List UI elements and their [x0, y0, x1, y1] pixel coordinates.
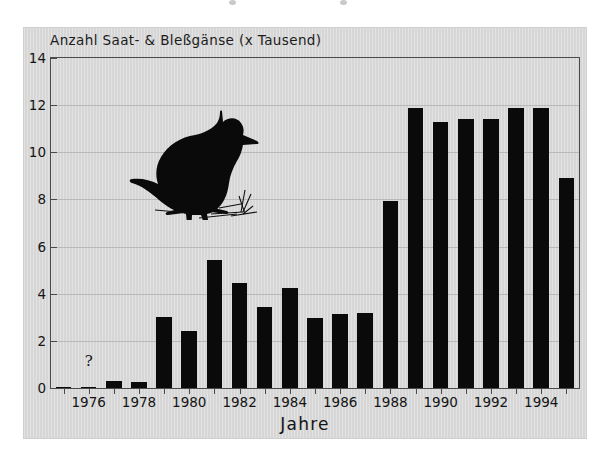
y-axis-label: 10 — [29, 144, 46, 160]
bar-1988 — [383, 201, 399, 388]
bar-1984 — [282, 288, 298, 388]
x-axis-label-1978: 1978 — [122, 394, 156, 410]
x-axis-label-1990: 1990 — [424, 394, 458, 410]
y-axis-label: 0 — [37, 380, 46, 396]
y-axis-label: 2 — [37, 333, 46, 349]
scan-artifacts — [0, 0, 602, 18]
x-axis-label-1976: 1976 — [72, 394, 106, 410]
goose-silhouette-icon — [127, 110, 267, 220]
bar-1987 — [357, 313, 373, 388]
x-axis-title: Jahre — [24, 414, 586, 434]
bar-series — [51, 58, 579, 388]
plot-area — [50, 57, 580, 389]
bar-1980 — [181, 331, 197, 388]
x-axis-label-1984: 1984 — [273, 394, 307, 410]
scan-blot — [229, 0, 236, 5]
bar-1985 — [307, 318, 323, 388]
bar-1989 — [408, 108, 424, 389]
y-axis-label: 8 — [37, 191, 46, 207]
bar-1990 — [433, 122, 449, 388]
y-axis-label: 12 — [29, 97, 46, 113]
bar-1975 — [56, 387, 72, 389]
bar-1978 — [131, 382, 147, 388]
y-axis-label: 6 — [37, 239, 46, 255]
x-axis-label-1992: 1992 — [474, 394, 508, 410]
x-axis-labels: 1976197819801982198419861988199019921994 — [50, 394, 580, 414]
y-axis-label: 14 — [29, 50, 46, 66]
y-axis-label: 4 — [37, 286, 46, 302]
bar-1993 — [508, 108, 524, 389]
y-axis-labels: 02468101214 — [24, 28, 46, 438]
bar-1994 — [533, 108, 549, 389]
scan-blot — [340, 0, 347, 5]
bar-1979 — [156, 317, 172, 388]
bar-1981 — [207, 260, 223, 388]
x-axis-label-1994: 1994 — [524, 394, 558, 410]
bar-1992 — [483, 119, 499, 388]
bar-1976 — [81, 387, 97, 389]
x-axis-label-1986: 1986 — [323, 394, 357, 410]
bar-1995 — [559, 178, 575, 388]
chart-figure-panel: Anzahl Saat- & Bleßgänse (x Tausend) 024… — [24, 28, 586, 438]
bar-1983 — [257, 307, 273, 388]
x-axis-label-1988: 1988 — [373, 394, 407, 410]
bar-1982 — [232, 283, 248, 388]
x-axis-label-1982: 1982 — [222, 394, 256, 410]
bar-1977 — [106, 381, 122, 388]
bar-1991 — [458, 119, 474, 388]
x-axis-label-1980: 1980 — [172, 394, 206, 410]
chart-title: Anzahl Saat- & Bleßgänse (x Tausend) — [50, 32, 322, 48]
question-mark-annotation: ? — [85, 352, 93, 370]
bar-1986 — [332, 314, 348, 388]
